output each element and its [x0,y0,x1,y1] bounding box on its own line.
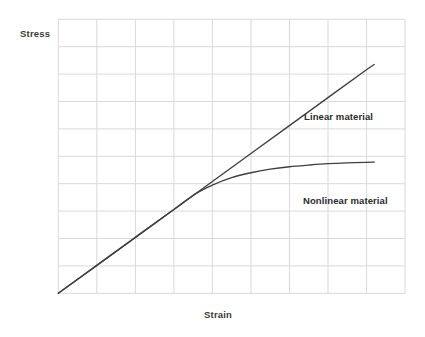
grid-lines [58,19,405,293]
series-line-nonlinear-material [58,162,374,293]
data-series [58,65,374,294]
x-axis-label: Strain [204,309,232,320]
series-annotation-linear-material: Linear material [304,111,373,122]
series-annotation-nonlinear-material: Nonlinear material [303,195,388,206]
chart-canvas [0,0,425,337]
y-axis-label: Stress [20,28,50,39]
series-line-linear-material [58,65,374,294]
stress-strain-chart: Stress Strain Linear material Nonlinear … [0,0,425,337]
